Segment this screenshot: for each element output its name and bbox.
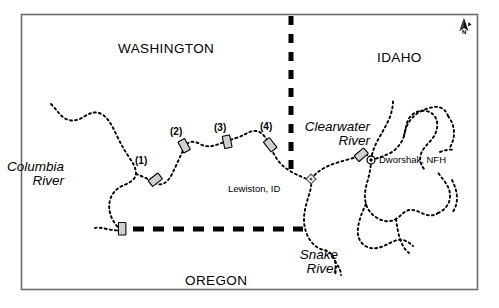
north-arrow-label: N	[462, 29, 466, 35]
place-label-dworshak: Dworshak, NFH	[379, 154, 446, 165]
river-label-snake-line2: River	[218, 262, 338, 276]
dworshak-marker[interactable]	[367, 156, 375, 164]
dam-label-2: (2)	[170, 126, 182, 137]
river-label-clearwater: Clearwater River	[230, 120, 370, 148]
state-label-washington: WASHINGTON	[118, 41, 214, 56]
state-label-idaho: IDAHO	[377, 50, 422, 65]
river-label-snake: Snake River	[218, 248, 338, 276]
dam-label-1: (1)	[135, 155, 147, 166]
river-label-columbia-line2: River	[0, 174, 64, 188]
river-label-clearwater-line2: River	[230, 134, 370, 148]
dam-label-4: (4)	[260, 121, 272, 132]
river-label-columbia: Columbia River	[0, 160, 64, 188]
dam-symbol-columbia-lower[interactable]	[118, 223, 126, 236]
map-figure: WASHINGTON IDAHO OREGON Columbia River C…	[0, 0, 499, 308]
river-label-snake-line1: Snake	[218, 248, 338, 262]
river-label-clearwater-line1: Clearwater	[230, 120, 370, 134]
river-label-columbia-line1: Columbia	[0, 160, 64, 174]
dam-label-3: (3)	[214, 122, 226, 133]
place-label-lewiston: Lewiston, ID	[228, 183, 280, 194]
